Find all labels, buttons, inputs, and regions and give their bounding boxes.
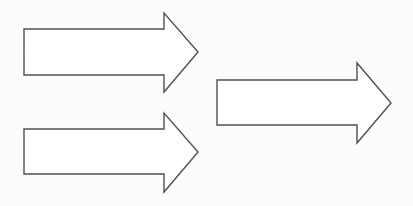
arrows-svg — [0, 0, 413, 206]
diagram-canvas — [0, 0, 413, 206]
arrow-right-icon — [217, 63, 391, 143]
arrow-top-left-icon — [24, 13, 198, 92]
arrow-bottom-left-icon — [24, 113, 198, 192]
